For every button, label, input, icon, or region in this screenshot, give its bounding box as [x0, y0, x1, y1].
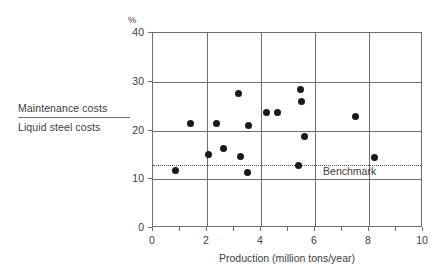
data-point: [301, 133, 308, 140]
x-axis-tick-label: 8: [355, 234, 381, 246]
data-point: [352, 113, 359, 120]
data-point: [295, 162, 302, 169]
data-point: [274, 109, 281, 116]
benchmark-reference-line: [153, 165, 421, 166]
x-axis-tick: [395, 227, 396, 231]
fraction-bar: [18, 117, 130, 118]
data-point: [237, 153, 244, 160]
y-axis-tick: [148, 32, 152, 33]
x-axis-tick-label: 10: [409, 234, 435, 246]
gridline-vertical: [315, 33, 316, 226]
x-axis-tick: [152, 227, 153, 231]
data-point: [298, 98, 305, 105]
benchmark-line-label: Benchmark: [323, 165, 376, 177]
data-point: [371, 154, 378, 161]
data-point: [235, 90, 242, 97]
data-point: [220, 145, 227, 152]
x-axis-tick: [341, 227, 342, 231]
y-axis-tick-label: 40: [122, 26, 144, 38]
y-axis-tick: [148, 227, 152, 228]
y-axis-tick: [148, 81, 152, 82]
x-axis-tick: [287, 227, 288, 231]
gridline-vertical: [261, 33, 262, 226]
x-axis-tick: [260, 227, 261, 231]
y-axis-tick: [148, 178, 152, 179]
y-axis-tick-label: 0: [122, 221, 144, 233]
data-point: [172, 167, 179, 174]
x-axis-tick: [368, 227, 369, 231]
y-axis-label-fraction: Maintenance costs Liquid steel costs: [18, 100, 136, 135]
x-axis-tick-label: 6: [301, 234, 327, 246]
gridline-horizontal: [153, 82, 421, 83]
x-axis-title: Production (million tons/year): [152, 252, 422, 265]
y-axis-tick: [148, 130, 152, 131]
x-axis-tick: [314, 227, 315, 231]
gridline-horizontal: [153, 179, 421, 180]
plot-area: Benchmark: [152, 32, 422, 227]
x-axis-tick-label: 4: [247, 234, 273, 246]
data-point: [245, 122, 252, 129]
y-axis-tick-label: 10: [122, 172, 144, 184]
y-axis-tick-label: 20: [122, 124, 144, 136]
x-axis-tick: [206, 227, 207, 231]
gridline-vertical: [369, 33, 370, 226]
y-axis-label-numerator: Maintenance costs: [18, 100, 136, 116]
y-axis-tick-label: 30: [122, 75, 144, 87]
gridline-horizontal: [153, 131, 421, 132]
x-axis-tick: [233, 227, 234, 231]
data-point: [205, 151, 212, 158]
x-axis-tick-label: 2: [193, 234, 219, 246]
data-point: [244, 169, 251, 176]
x-axis-tick: [179, 227, 180, 231]
data-point: [297, 86, 304, 93]
gridline-vertical: [207, 33, 208, 226]
data-point: [187, 120, 194, 127]
y-axis-unit-label: %: [128, 14, 136, 25]
x-axis-tick-label: 0: [139, 234, 165, 246]
y-axis-label-denominator: Liquid steel costs: [18, 119, 136, 135]
data-point: [263, 109, 270, 116]
x-axis-tick: [422, 227, 423, 231]
data-point: [213, 120, 220, 127]
